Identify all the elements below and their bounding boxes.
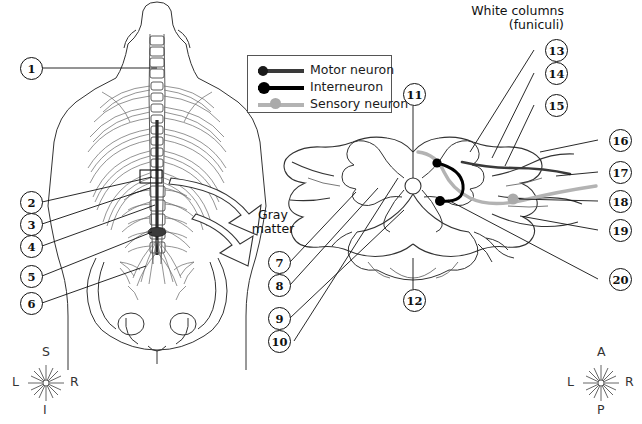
callout-9[interactable]: 9 bbox=[268, 307, 291, 330]
callout-7[interactable]: 7 bbox=[268, 251, 291, 274]
lumbar-plexus bbox=[120, 262, 194, 300]
legend-label-sensory-neuron: Sensory neuron bbox=[310, 96, 408, 111]
legend-label-interneuron: Interneuron bbox=[310, 79, 383, 94]
callout-6[interactable]: 6 bbox=[20, 292, 43, 315]
legend-dot-motor-neuron bbox=[258, 66, 268, 76]
legend-dot-sensory-neuron bbox=[270, 98, 281, 109]
callout-4[interactable]: 4 bbox=[20, 235, 43, 258]
callout-12[interactable]: 12 bbox=[403, 289, 426, 312]
compass-rose-right: A P L R bbox=[563, 346, 639, 420]
pelvis bbox=[87, 258, 227, 364]
neuron-legend: Motor neuron Interneuron Sensory neuron bbox=[247, 55, 392, 113]
sensory-cell-body bbox=[508, 194, 519, 205]
callout-14[interactable]: 14 bbox=[545, 62, 568, 85]
compass-left-superior: S bbox=[42, 344, 50, 359]
callout-20[interactable]: 20 bbox=[609, 268, 632, 291]
central-canal bbox=[405, 178, 421, 194]
interneuron-cell-body-dorsal bbox=[432, 158, 441, 167]
callout-1[interactable]: 1 bbox=[20, 57, 43, 80]
compass-rose-left: S I L R bbox=[8, 346, 84, 420]
spinal-cord-in-situ bbox=[120, 120, 194, 300]
callout-3[interactable]: 3 bbox=[20, 213, 43, 236]
compass-right-anterior: A bbox=[597, 344, 606, 359]
label-gray-matter-line2: matter bbox=[252, 221, 294, 236]
scapulae bbox=[102, 92, 212, 122]
callout-2[interactable]: 2 bbox=[20, 191, 43, 214]
callout-16[interactable]: 16 bbox=[609, 129, 632, 152]
head-neck bbox=[124, 2, 190, 48]
label-gray-matter: Gray matter bbox=[246, 208, 300, 237]
spinal-cord-figure: .o { fill:none; stroke:#333; stroke-widt… bbox=[0, 0, 642, 424]
callout-8[interactable]: 8 bbox=[268, 274, 291, 297]
label-white-columns-line2: (funiculi) bbox=[509, 17, 564, 32]
legend-dot-interneuron bbox=[258, 82, 270, 94]
callout-15[interactable]: 15 bbox=[545, 94, 568, 117]
label-white-columns-line1: White columns bbox=[471, 3, 564, 18]
callout-19[interactable]: 19 bbox=[609, 219, 632, 242]
callout-13[interactable]: 13 bbox=[545, 39, 568, 62]
callout-10[interactable]: 10 bbox=[268, 330, 291, 353]
compass-left-inferior: I bbox=[43, 402, 47, 417]
neuron-pathways bbox=[418, 152, 596, 206]
compass-left-right: R bbox=[70, 374, 79, 389]
legend-swatch-sensory-neuron bbox=[258, 103, 304, 107]
compass-right-right: R bbox=[625, 374, 634, 389]
label-white-columns: White columns (funiculi) bbox=[418, 4, 564, 33]
label-gray-matter-line1: Gray bbox=[258, 207, 288, 222]
legend-label-motor-neuron: Motor neuron bbox=[310, 62, 394, 77]
motor-neuron-path bbox=[462, 162, 570, 174]
callout-5[interactable]: 5 bbox=[20, 265, 43, 288]
interneuron-cell-body-ventral bbox=[435, 196, 445, 206]
compass-right-left: L bbox=[567, 374, 574, 389]
callout-17[interactable]: 17 bbox=[609, 161, 632, 184]
compass-left-left: L bbox=[12, 374, 19, 389]
sensory-neuron-path bbox=[418, 152, 596, 204]
compass-right-posterior: P bbox=[597, 402, 605, 417]
callout-11[interactable]: 11 bbox=[403, 83, 426, 106]
callout-18[interactable]: 18 bbox=[609, 190, 632, 213]
